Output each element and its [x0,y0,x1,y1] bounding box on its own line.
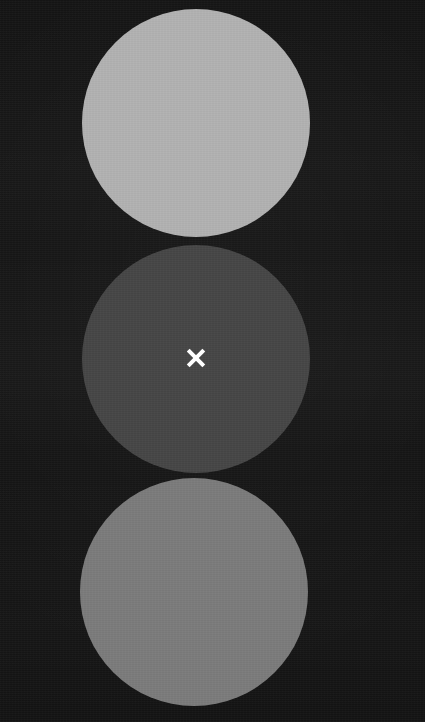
circle-bottom-medium-gray[interactable] [80,478,308,706]
scene-canvas: Three vertically stacked circles of diff… [0,0,425,722]
circle-top-light-gray[interactable] [82,9,310,237]
circle-middle-dark-gray[interactable] [82,245,310,473]
